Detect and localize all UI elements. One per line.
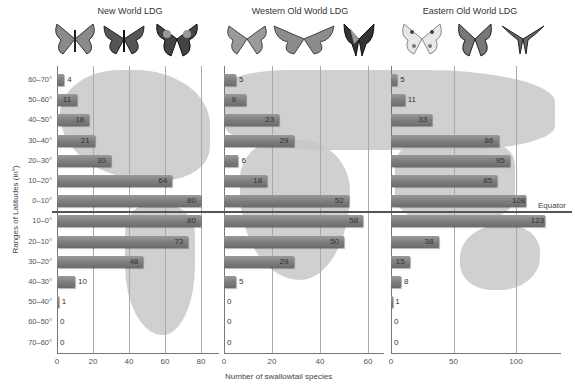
x-tick-label: 60 <box>161 357 170 366</box>
bar <box>391 94 405 106</box>
x-tick-label: 50 <box>449 357 458 366</box>
butterfly-icon <box>500 20 546 58</box>
gridline <box>454 66 455 353</box>
latitude-label: 30–20° <box>24 257 52 266</box>
x-tick-label: 20 <box>89 357 98 366</box>
x-axis-panel-2 <box>224 353 384 354</box>
latitude-label: 10–0° <box>24 216 52 225</box>
latitude-label: 60–70° <box>24 75 52 84</box>
bar-value-label: 0 <box>227 338 231 347</box>
equator-label: Equator <box>538 201 566 210</box>
butterfly-icon <box>155 20 199 58</box>
gridline <box>165 66 166 353</box>
y-axis-panel-1 <box>57 66 58 354</box>
latitude-label: 50–60° <box>24 95 52 104</box>
bar-value-label: 73 <box>174 237 183 246</box>
x-tick-label: 0 <box>55 357 59 366</box>
butterfly-icon <box>53 20 97 58</box>
bar <box>57 74 64 86</box>
x-axis-label: Number of swallowtail species <box>225 372 332 381</box>
bar <box>224 155 238 167</box>
bar-value-label: 0 <box>227 297 231 306</box>
bar <box>224 236 344 248</box>
latitude-label: 70–60° <box>24 338 52 347</box>
latitude-label: 30–40° <box>24 136 52 145</box>
bar-value-label: 0 <box>60 317 64 326</box>
bar <box>391 74 397 86</box>
bar-value-label: 4 <box>67 75 71 84</box>
bar-value-label: 48 <box>129 257 138 266</box>
bar <box>224 195 349 207</box>
bar-value-label: 21 <box>81 136 90 145</box>
gridline <box>272 66 273 353</box>
latitude-label: 60–50° <box>24 317 52 326</box>
butterfly-icon <box>455 20 495 58</box>
bar-value-label: 108 <box>512 196 525 205</box>
y-axis-label: Ranges of Latitudes (in°) <box>11 155 20 265</box>
bar-value-label: 5 <box>239 75 243 84</box>
x-axis-panel-3 <box>391 353 561 354</box>
bar-value-label: 38 <box>425 237 434 246</box>
bar-value-label: 1 <box>395 297 399 306</box>
x-tick-label: 40 <box>125 357 134 366</box>
bar-value-label: 6 <box>241 156 245 165</box>
x-tick-label: 40 <box>316 357 325 366</box>
bar <box>391 296 393 308</box>
bar-value-label: 86 <box>485 136 494 145</box>
gridline <box>320 66 321 353</box>
bar <box>57 276 75 288</box>
bar-value-label: 50 <box>330 237 339 246</box>
panel-title-eastern-old-world: Eastern Old World LDG <box>405 6 535 16</box>
x-tick-label: 60 <box>364 357 373 366</box>
latitude-label: 20–10° <box>24 237 52 246</box>
bar <box>391 155 510 167</box>
latitude-label: 40–50° <box>24 115 52 124</box>
bar-value-label: 11 <box>408 95 416 104</box>
butterfly-icon <box>342 20 376 58</box>
equator-line <box>52 211 572 213</box>
butterfly-icon <box>400 20 444 58</box>
gridline <box>368 66 369 353</box>
latitude-label: 20–30° <box>24 156 52 165</box>
x-tick-label: 100 <box>509 357 522 366</box>
y-axis-panel-3 <box>391 66 392 354</box>
bar <box>57 215 201 227</box>
bar-value-label: 8 <box>404 277 408 286</box>
latitude-label: 10–20° <box>24 176 52 185</box>
bar <box>391 215 545 227</box>
bar <box>57 296 59 308</box>
panel-title-new-world: New World LDG <box>70 6 190 16</box>
gridline <box>201 66 202 353</box>
latitude-label: 0–10° <box>24 196 52 205</box>
bar <box>391 135 499 147</box>
latitude-label: 50–40° <box>24 297 52 306</box>
bar-value-label: 80 <box>187 216 196 225</box>
bar-value-label: 0 <box>394 338 398 347</box>
bar-value-label: 5 <box>239 277 243 286</box>
bar-value-label: 29 <box>280 136 289 145</box>
bar-value-label: 58 <box>349 216 358 225</box>
bar-value-label: 30 <box>97 156 106 165</box>
bar-value-label: 0 <box>60 338 64 347</box>
bar-value-label: 5 <box>400 75 404 84</box>
butterfly-icon <box>272 20 336 58</box>
bar-value-label: 1 <box>62 297 66 306</box>
bar <box>57 114 89 126</box>
x-tick-label: 0 <box>222 357 226 366</box>
bar <box>57 175 172 187</box>
bar-value-label: 18 <box>75 115 84 124</box>
x-tick-label: 0 <box>389 357 393 366</box>
butterfly-icon <box>225 20 269 58</box>
bar-value-label: 33 <box>418 115 427 124</box>
bar <box>224 74 236 86</box>
bar-value-label: 85 <box>483 176 492 185</box>
panel-title-western-old-world: Western Old World LDG <box>240 6 360 16</box>
bar-value-label: 18 <box>253 176 262 185</box>
bar <box>224 215 363 227</box>
bar-value-label: 0 <box>227 317 231 326</box>
x-tick-label: 80 <box>197 357 206 366</box>
gridline <box>516 66 517 353</box>
latitude-label: 40–30° <box>24 277 52 286</box>
bar <box>57 195 201 207</box>
butterfly-icon <box>102 20 146 58</box>
